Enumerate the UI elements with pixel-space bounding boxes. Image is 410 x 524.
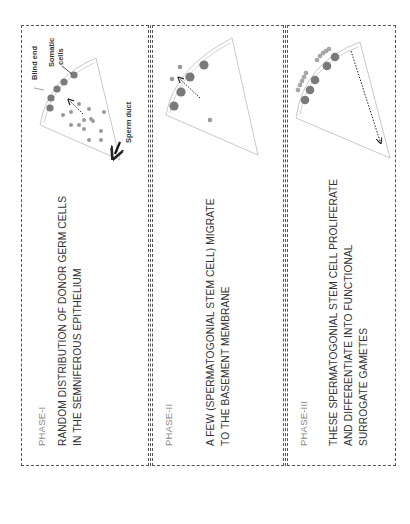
somatic-cell [60,78,67,85]
somatic-cell [311,76,320,85]
stem-cell [208,118,213,123]
somatic-cell [306,86,315,95]
somatic-cell [169,101,178,110]
somatic-cell [176,87,185,96]
germ-cell [91,119,95,123]
proliferating-cell [327,47,331,51]
description-line: THESE SPERMATOGONIAL STEM CELL PROLIFERA… [326,179,341,446]
somatic-cell [331,53,340,62]
somatic-cell [301,96,310,105]
somatic-cell [46,104,53,111]
germ-cell [102,110,106,114]
somatic-cell [53,85,60,92]
germ-cell [99,138,103,142]
germ-cell [69,123,73,127]
somatic-cell [47,94,54,101]
phase-3-title: PHASE-III [298,401,309,446]
description-line: SURROGATE GAMETES [356,179,371,446]
description-line: AND DIFFERENTIATE INTO FUNCTIONAL [341,179,356,446]
proliferating-cell [296,88,300,92]
somatic-cell [199,60,208,69]
germ-cell [87,138,91,142]
somatic-cells-phase-3 [301,53,340,105]
description-line: A FEW (SPERMATOGONIAL STEM CELL) MIGRATE [203,198,218,446]
tubule-section-phase-2 [166,38,258,155]
germ-cell [99,129,103,133]
phase-2-title: PHASE-II [163,404,174,446]
germ-cell [61,113,65,117]
phase-2-description: A FEW (SPERMATOGONIAL STEM CELL) MIGRATE… [203,198,233,446]
proliferating-cell [302,75,306,79]
phase-1-description: RANDOM DISTRIBUTION OF DONOR GERM CELLS … [55,196,85,446]
somatic-cell [323,62,332,71]
sperm-duct-label: Sperm duct [124,102,133,143]
stem-cell [178,65,183,70]
description-line: IN THE SEMNIFEROUS EPITHELIUM [70,196,85,446]
somatic-cells-label-2: cells [56,48,65,65]
phase-1-title: PHASE-I [36,407,47,446]
germ-cell [69,110,73,114]
somatic-cell [70,71,77,78]
germ-cell [87,107,91,111]
blind-end-pointer [34,88,44,90]
phase-3-description: THESE SPERMATOGONIAL STEM CELL PROLIFERA… [326,179,371,446]
germ-cell [82,127,86,131]
tubule-section-phase-3 [296,42,390,158]
germ-cell [77,123,81,127]
somatic-cells-label: Somatic [47,38,56,67]
donor-germ-cells-phase-1 [61,102,106,142]
proliferating-cell [315,58,319,62]
proliferating-cell [298,83,302,87]
germ-cell [77,102,81,106]
somatic-cells-phase-1 [46,71,77,111]
proliferating-cell [318,54,322,58]
stem-cell [170,77,175,82]
description-line: RANDOM DISTRIBUTION OF DONOR GERM CELLS [55,196,70,446]
somatic-cells-phase-2 [169,60,208,110]
somatic-cells-pointer [62,66,72,74]
description-line: TO THE BASEMENT MEMBRANE [218,198,233,446]
germ-cell [82,118,86,122]
blind-end-label: Blind end [30,46,39,80]
proliferating-cell [300,79,304,83]
proliferating-cell [304,71,308,75]
somatic-cell [185,72,194,81]
